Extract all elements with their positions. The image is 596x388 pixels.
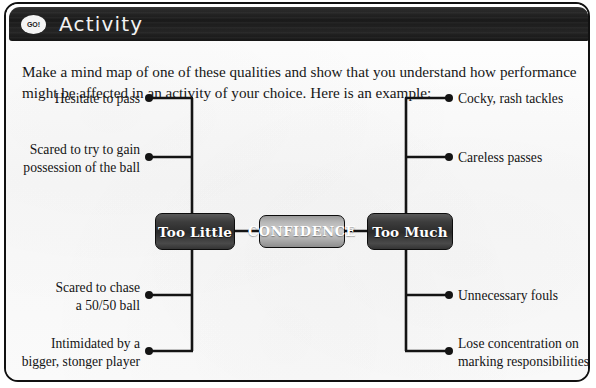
leaf-dot-left-2	[145, 153, 153, 161]
leaf-label-left-1: Hesitate to pass	[16, 90, 140, 108]
leaf-label-right-3: Unnecessary fouls	[458, 287, 588, 305]
leaf-label-left-3-line1: Scared to chase	[16, 279, 140, 297]
leaf-label-left-2: Scared to try to gain possession of the …	[16, 141, 140, 176]
leaf-label-left-3: Scared to chase a 50/50 ball	[16, 279, 140, 314]
leaf-label-right-4: Lose concentration on marking responsibi…	[458, 335, 590, 370]
go-circle-icon: GO!	[21, 15, 46, 34]
leaf-dot-left-4	[145, 347, 153, 355]
leaf-label-right-1: Cocky, rash tackles	[458, 90, 588, 108]
branch-node-too-little[interactable]: Too Little	[155, 213, 235, 250]
leaf-label-right-4-line1: Lose concentration on	[458, 335, 590, 353]
leaf-label-right-3-line1: Unnecessary fouls	[458, 287, 588, 305]
leaf-dot-left-3	[145, 291, 153, 299]
leaf-dot-right-4	[445, 347, 453, 355]
leaf-label-left-3-line2: a 50/50 ball	[16, 297, 140, 315]
go-badge-label: GO!	[27, 21, 40, 28]
leaf-label-left-2-line2: possession of the ball	[16, 159, 140, 177]
leaf-label-right-1-line1: Cocky, rash tackles	[458, 90, 588, 108]
page-title: Activity	[59, 12, 143, 36]
mind-map-connectors	[6, 4, 590, 382]
leaf-dot-right-2	[445, 153, 453, 161]
leaf-label-left-4-line2: bigger, stonger player	[12, 353, 140, 371]
center-node-confidence[interactable]: CONFIDENCE	[259, 215, 345, 248]
leaf-dot-right-3	[445, 291, 453, 299]
leaf-label-left-4: Intimidated by a bigger, stonger player	[12, 335, 140, 370]
leaf-label-left-2-line1: Scared to try to gain	[16, 141, 140, 159]
leaf-label-right-2: Careless passes	[458, 149, 588, 167]
branch-node-too-much-label: Too Much	[372, 224, 448, 240]
branch-node-too-little-label: Too Little	[158, 224, 232, 240]
branch-node-too-much[interactable]: Too Much	[367, 213, 453, 250]
activity-header: GO! Activity	[9, 7, 589, 41]
mind-map: Too Little CONFIDENCE Too Much Hesitate …	[6, 4, 590, 382]
activity-card: GO! Activity Make a mind map of one of t…	[4, 2, 590, 382]
leaf-dot-left-1	[145, 94, 153, 102]
leaf-label-left-1-line1: Hesitate to pass	[16, 90, 140, 108]
center-node-label: CONFIDENCE	[248, 224, 356, 239]
leaf-label-left-4-line1: Intimidated by a	[12, 335, 140, 353]
leaf-label-right-2-line1: Careless passes	[458, 149, 588, 167]
leaf-label-right-4-line2: marking responsibilities	[458, 353, 590, 371]
leaf-dot-right-1	[445, 94, 453, 102]
